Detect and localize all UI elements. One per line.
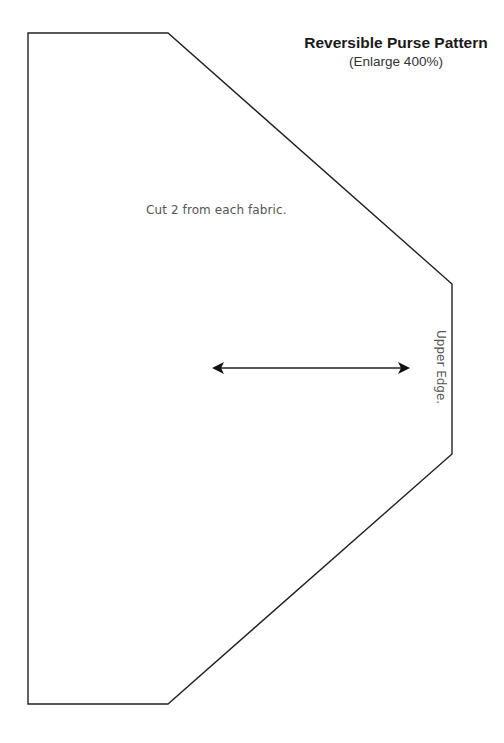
enlarge-instruction: (Enlarge 400%) [296,54,496,69]
pattern-title: Reversible Purse Pattern [296,34,496,52]
grainline-arrow-icon [212,362,410,374]
cut-instruction: Cut 2 from each fabric. [146,203,287,217]
pattern-canvas: Reversible Purse Pattern (Enlarge 400%) … [0,0,504,743]
upper-edge-label: Upper Edge. [434,330,448,404]
pattern-drawing [0,0,504,743]
